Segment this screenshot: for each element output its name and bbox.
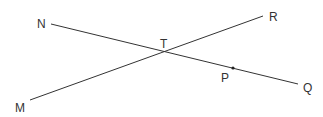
label-t: T bbox=[160, 37, 168, 51]
line-nq bbox=[51, 24, 298, 84]
geometry-figure: N R T P Q M bbox=[0, 0, 323, 117]
label-n: N bbox=[37, 17, 46, 31]
label-r: R bbox=[269, 10, 278, 24]
label-q: Q bbox=[303, 81, 312, 95]
label-m: M bbox=[15, 101, 25, 115]
diagram-canvas: N R T P Q M bbox=[0, 0, 323, 117]
line-mr bbox=[30, 16, 263, 100]
label-p: P bbox=[221, 71, 229, 85]
point-p-dot bbox=[231, 66, 234, 69]
